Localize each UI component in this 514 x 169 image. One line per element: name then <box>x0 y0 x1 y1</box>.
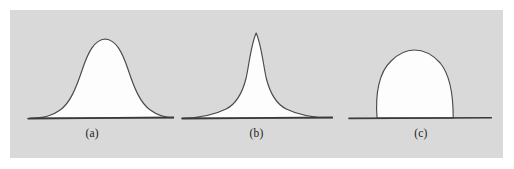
platykurtic-flat-curve-icon <box>339 10 503 128</box>
panel-c-label: (c) <box>339 126 503 140</box>
panel-a-mesokurtic: (a) <box>10 10 174 158</box>
leptokurtic-curve-path <box>182 33 332 118</box>
leptokurtic-peaked-curve-icon <box>174 10 338 128</box>
panel-c-baseline-axis <box>349 118 491 119</box>
panel-b-label: (b) <box>174 126 338 140</box>
panel-a-label: (a) <box>10 126 174 140</box>
platykurtic-curve-path <box>376 50 453 118</box>
panel-c-platykurtic: (c) <box>339 10 503 158</box>
mesokurtic-curve-path <box>30 39 174 118</box>
curve-panels-row: (a) (b) (c) <box>10 10 503 158</box>
panel-b-leptokurtic: (b) <box>174 10 338 158</box>
mesokurtic-normal-curve-icon <box>10 10 174 128</box>
figure-root: (a) (b) (c) <box>0 0 514 169</box>
figure-gray-panel: (a) (b) (c) <box>10 10 503 158</box>
